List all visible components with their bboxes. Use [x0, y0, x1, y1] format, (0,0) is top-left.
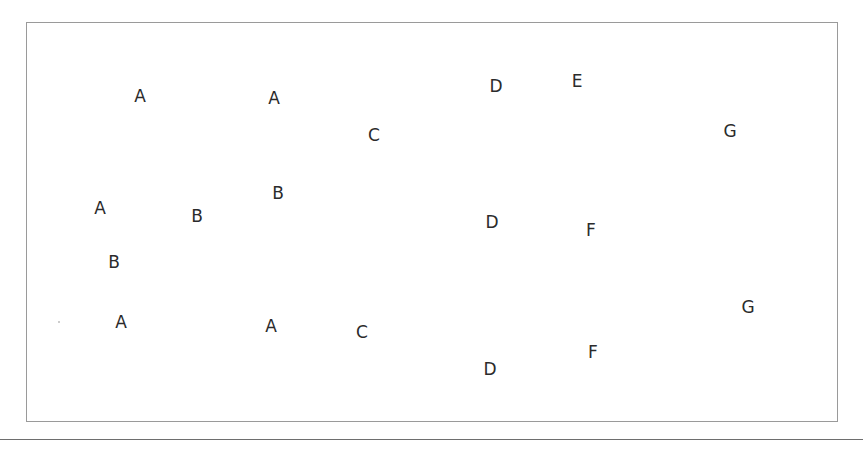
label-f: F [586, 222, 596, 239]
label-a: A [268, 90, 280, 107]
label-e: E [572, 73, 583, 90]
label-c: C [356, 324, 368, 341]
label-b: B [272, 185, 284, 202]
label-d: D [483, 361, 496, 378]
label-g: G [741, 299, 754, 316]
label-b: B [191, 208, 203, 225]
label-a: A [134, 88, 146, 105]
label-b: B [108, 254, 120, 271]
label-d: D [489, 78, 502, 95]
label-a: A [115, 314, 127, 331]
label-a: A [265, 318, 277, 335]
bottom-rule [0, 439, 863, 440]
label-d: D [485, 214, 498, 231]
label-g: G [723, 123, 736, 140]
label-a: A [94, 200, 106, 217]
diagram-frame [26, 22, 838, 422]
label-c: C [368, 127, 380, 144]
speck-mark [58, 321, 60, 323]
label-f: F [588, 344, 598, 361]
